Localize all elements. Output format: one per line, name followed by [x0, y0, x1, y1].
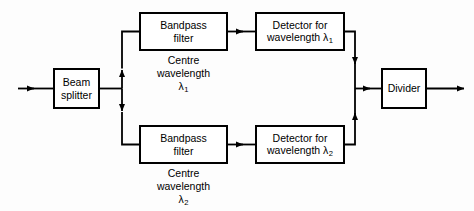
- caption-bottom-line-1: Centre: [139, 167, 228, 180]
- node-bandpass-filter-top: Bandpass filter: [139, 12, 228, 51]
- detector-top-prefix: wavelength: [267, 31, 323, 43]
- node-detector-bottom: Detector for wavelength λ2: [255, 125, 345, 164]
- detector-top-line-1: Detector for: [273, 19, 328, 31]
- detector-bottom-lambda-subscript: 2: [328, 149, 333, 158]
- block-diagram: Beam splitter Bandpass filter Centre wav…: [0, 0, 474, 211]
- divider-label: Divider: [388, 82, 421, 94]
- bandpass-bottom-line-2: filter: [174, 145, 194, 157]
- caption-bottom-line-2: wavelength: [139, 180, 228, 193]
- bandpass-top-line-2: filter: [174, 32, 194, 44]
- caption-top-line-1: Centre: [139, 54, 228, 67]
- node-bandpass-filter-bottom: Bandpass filter: [139, 125, 228, 164]
- beam-splitter-line-1: Beam: [63, 76, 90, 88]
- detector-bottom-prefix: wavelength: [267, 144, 323, 156]
- bandpass-top-line-1: Bandpass: [160, 19, 207, 31]
- wire-split-bus-to-bandpass-top: [122, 32, 139, 69]
- detector-bottom-line-1: Detector for: [273, 132, 328, 144]
- node-detector-top: Detector for wavelength λ1: [255, 12, 345, 51]
- detector-top-line-2: wavelength λ1: [267, 31, 333, 44]
- wire-detector-bottom-to-merge-bus: [345, 113, 355, 145]
- wire-split-bus-to-bandpass-bottom: [122, 112, 139, 145]
- beam-splitter-line-2: splitter: [61, 89, 92, 101]
- lambda-subscript-top: 1: [184, 85, 189, 94]
- detector-top-lambda-subscript: 1: [328, 36, 333, 45]
- wire-detector-top-to-merge-bus: [345, 32, 355, 65]
- wire-beam-splitter-to-split-bus: [100, 70, 122, 111]
- caption-centre-wavelength-top: Centre wavelength λ1: [139, 54, 228, 92]
- lambda-subscript-bottom: 2: [184, 198, 189, 207]
- detector-bottom-line-2: wavelength λ2: [267, 144, 333, 157]
- caption-top-symbol-line: λ1: [139, 80, 228, 93]
- caption-top-line-2: wavelength: [139, 67, 228, 80]
- caption-bottom-symbol-line: λ2: [139, 193, 228, 206]
- caption-centre-wavelength-bottom: Centre wavelength λ2: [139, 167, 228, 205]
- node-divider: Divider: [381, 68, 427, 109]
- node-beam-splitter: Beam splitter: [53, 68, 100, 109]
- bandpass-bottom-line-1: Bandpass: [160, 132, 207, 144]
